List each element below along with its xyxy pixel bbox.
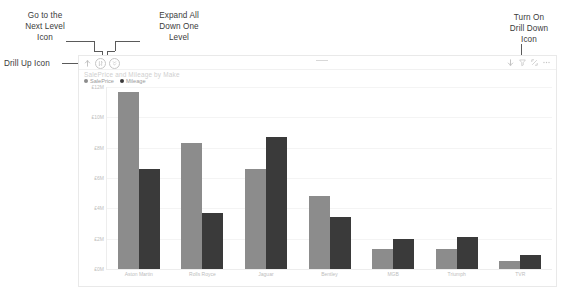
visual-controls-right[interactable] <box>506 58 551 67</box>
go-to-next-level-icon[interactable] <box>95 58 106 69</box>
x-axis-label: Bentley <box>298 271 362 277</box>
bar-saleprice[interactable] <box>499 261 520 269</box>
x-axis-label: Jaguar <box>234 271 298 277</box>
bar-group[interactable] <box>488 87 552 269</box>
annotation-expand-all-down-one-level: Expand All Down One Level <box>139 10 219 43</box>
y-tick-label: £10M <box>91 114 104 120</box>
legend-swatch-saleprice <box>84 79 88 83</box>
more-options-icon[interactable] <box>542 58 551 67</box>
visual-divider <box>316 60 328 62</box>
y-tick-label: £6M <box>94 175 104 181</box>
focus-mode-icon[interactable] <box>530 58 539 67</box>
drill-up-icon[interactable] <box>83 59 92 68</box>
x-axis-label: Triumph <box>425 271 489 277</box>
bar-mileage[interactable] <box>266 137 287 269</box>
bar-mileage[interactable] <box>202 213 223 269</box>
x-axis-line <box>106 269 552 270</box>
annotation-drill-up: Drill Up Icon <box>4 58 70 69</box>
y-tick-label: £4M <box>94 205 104 211</box>
leader-line-next-level-foot <box>94 51 102 52</box>
leader-line-expand-all-down <box>115 41 116 51</box>
legend-label-mileage: Mileage <box>126 78 146 84</box>
bar-saleprice[interactable] <box>372 249 393 269</box>
chart-title: SalePrice and Mileage by Make <box>84 71 180 78</box>
annotation-turn-on-drill-down: Turn On Drill Down Icon <box>494 12 564 45</box>
bar-group[interactable] <box>171 87 235 269</box>
bar-group[interactable] <box>298 87 362 269</box>
leader-line-drill-down <box>521 44 522 55</box>
x-axis-label: MGB <box>361 271 425 277</box>
bar-mileage[interactable] <box>139 169 160 269</box>
leader-line-next-level-down <box>94 41 95 51</box>
bar-group[interactable] <box>107 87 171 269</box>
x-axis-label: Aston Martin <box>107 271 171 277</box>
bar-saleprice[interactable] <box>245 169 266 269</box>
bar-group[interactable] <box>234 87 298 269</box>
leader-line-expand-all <box>115 41 140 42</box>
legend-swatch-mileage <box>120 79 124 83</box>
bar-mileage[interactable] <box>330 217 351 269</box>
drill-controls-left[interactable] <box>83 58 120 69</box>
y-tick-label: £0M <box>94 266 104 272</box>
bar-saleprice[interactable] <box>181 143 202 269</box>
visual-header-toolbar[interactable] <box>79 56 556 70</box>
bar-saleprice[interactable] <box>309 196 330 269</box>
y-tick-label: £8M <box>94 145 104 151</box>
legend-item-mileage[interactable]: Mileage <box>120 78 146 84</box>
y-tick-label: £12M <box>91 84 104 90</box>
y-axis: £12M £10M £8M £6M £4M £2M £0M <box>84 87 106 269</box>
bar-group[interactable] <box>425 87 489 269</box>
leader-line-next-level <box>66 41 94 42</box>
drill-down-toggle-icon[interactable] <box>506 58 515 67</box>
y-tick-label: £2M <box>94 236 104 242</box>
bar-saleprice[interactable] <box>436 249 457 269</box>
expand-all-down-one-level-icon[interactable] <box>109 58 120 69</box>
x-axis-label: Rolls Royce <box>171 271 235 277</box>
leader-line-expand-all-foot <box>107 51 115 52</box>
bar-mileage[interactable] <box>520 255 541 269</box>
powerbi-visual-container[interactable]: SalePrice and Mileage by Make SalePrice … <box>78 55 557 287</box>
annotation-go-to-next-level: Go to the Next Level Icon <box>8 10 82 43</box>
x-axis-labels: Aston MartinRolls RoyceJaguarBentleyMGBT… <box>107 271 552 277</box>
bar-mileage[interactable] <box>457 237 478 269</box>
chart-plot-area[interactable]: £12M £10M £8M £6M £4M £2M £0M Aston Mart… <box>84 87 552 282</box>
chart-bars[interactable] <box>107 87 552 269</box>
bar-mileage[interactable] <box>393 239 414 269</box>
bar-saleprice[interactable] <box>118 92 139 269</box>
filter-icon[interactable] <box>518 58 527 67</box>
bar-group[interactable] <box>361 87 425 269</box>
x-axis-label: TVR <box>488 271 552 277</box>
